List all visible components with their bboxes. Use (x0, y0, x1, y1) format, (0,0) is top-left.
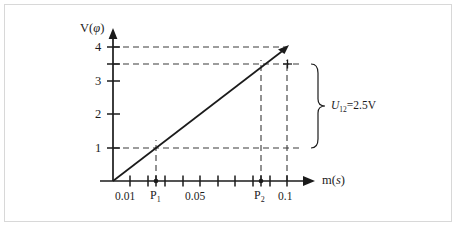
x-tick-label-0p05: 0.05 (185, 191, 205, 203)
x-tick-label-0p01: 0.01 (115, 191, 135, 203)
y-tick-label-1: 1 (95, 142, 101, 155)
marker-label-p2: P2 (254, 189, 265, 204)
point-p1-marker (154, 179, 159, 184)
marker-label-p2-sub: 2 (261, 195, 265, 204)
guide-lines (113, 47, 300, 181)
marker-label-p1-sub: 1 (157, 195, 161, 204)
x-axis-title-prefix: m( (322, 173, 336, 187)
x-axis-title-suffix: ) (341, 173, 345, 187)
intersection-marks (283, 60, 292, 69)
u12-annotation-label: U12=2.5V (331, 100, 376, 114)
calibration-plot (0, 0, 458, 228)
y-tick-label-2: 2 (95, 108, 101, 121)
y-axis-title-suffix: ) (100, 21, 104, 35)
point-p2-marker (259, 179, 264, 184)
u12-subscript: 12 (339, 105, 347, 114)
marker-label-p1: P1 (150, 189, 161, 204)
u12-value: =2.5V (347, 99, 376, 111)
x-axis (100, 176, 315, 187)
y-axis-title: V(φ) (80, 22, 104, 35)
y-axis-title-prefix: V( (80, 21, 93, 35)
series-calibration-line (113, 45, 289, 181)
y-tick-label-3: 3 (95, 75, 101, 88)
x-tick-label-0p1: 0.1 (278, 191, 292, 203)
marker-label-p1-text: P (150, 188, 157, 202)
y-axis (107, 28, 120, 181)
x-axis-title: m(s) (322, 174, 345, 187)
marker-label-p2-text: P (254, 188, 261, 202)
u12-brace (311, 64, 325, 148)
y-tick-label-4: 4 (95, 41, 101, 54)
